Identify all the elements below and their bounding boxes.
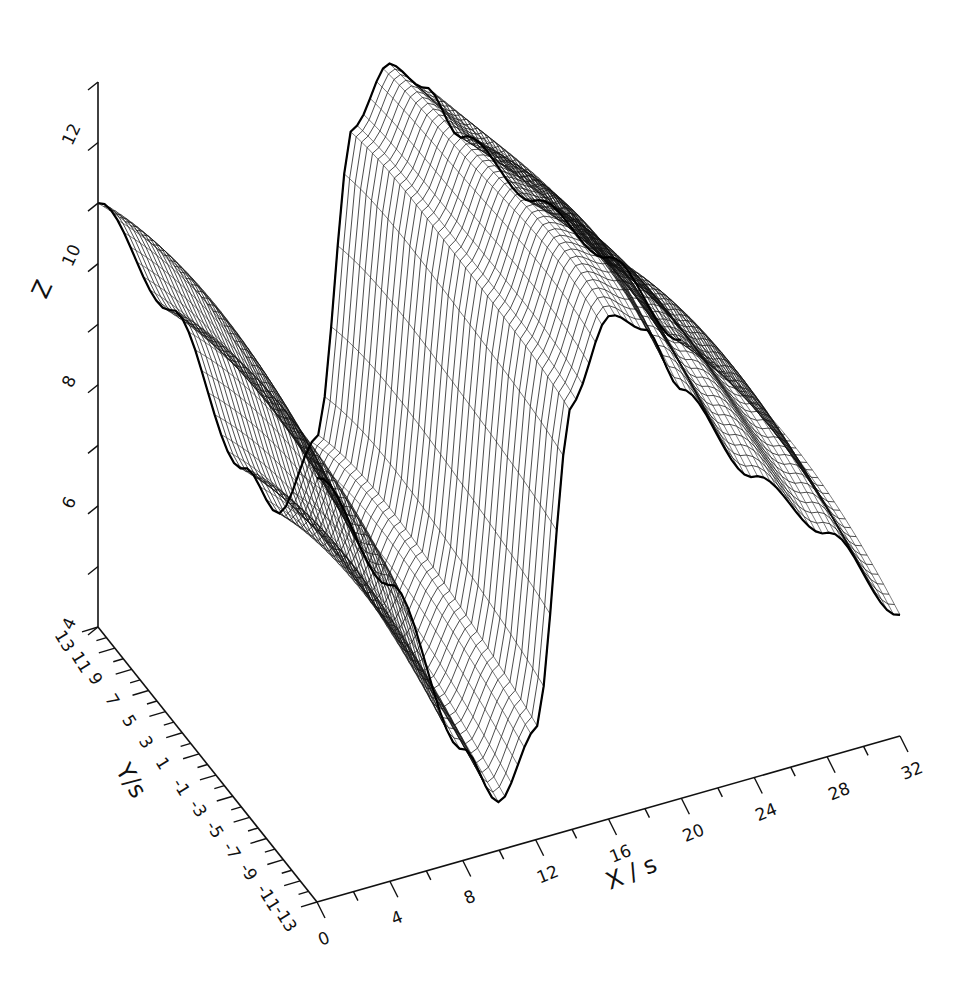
y-tick: [113, 659, 123, 662]
y-tick: [250, 839, 266, 844]
z-tick: [88, 203, 98, 211]
y-tick: [301, 902, 317, 907]
x-axis-ticks: 048121620242832: [315, 736, 926, 950]
x-tick: [827, 757, 835, 773]
z-tick-label: 8: [57, 372, 80, 390]
y-tick: [214, 786, 224, 789]
y-tick-label: -1: [169, 775, 195, 800]
z-tick: [88, 143, 98, 151]
mesh-line: [519, 195, 738, 469]
x-tick: [864, 746, 869, 755]
mesh-line: [409, 78, 628, 322]
mesh-line: [649, 306, 868, 581]
z-tick-label: 12: [57, 120, 84, 148]
y-tick-label: -5: [202, 817, 228, 842]
mesh-line: [312, 306, 895, 792]
x-tick-label: 28: [825, 778, 853, 805]
wireframe-surface: [98, 64, 900, 803]
x-tick: [463, 861, 471, 877]
mesh-line: [182, 318, 401, 593]
surface-plot: 4681012 131197531-1-3-5-7-9-11-13 048121…: [0, 0, 967, 984]
mesh-line: [675, 339, 894, 614]
y-tick-label: 5: [118, 711, 141, 731]
x-tick: [791, 767, 796, 776]
y-tick-label: 1: [152, 753, 175, 773]
x-tick: [572, 829, 577, 838]
z-tick: [88, 82, 98, 90]
mesh-line: [273, 510, 492, 797]
y-axis-title: Y/s: [109, 757, 152, 803]
mesh-line: [224, 193, 807, 647]
mesh-line: [215, 415, 434, 692]
y-tick-label: -3: [185, 796, 211, 821]
x-tick: [353, 892, 358, 901]
mesh-line: [268, 242, 851, 716]
x-tick: [645, 809, 650, 818]
y-axis-ticks: 131197531-1-3-5-7-9-11-13: [51, 627, 317, 936]
z-tick: [88, 264, 98, 272]
mesh-line: [246, 216, 829, 680]
z-tick: [88, 324, 98, 332]
y-tick: [299, 891, 309, 894]
z-tick: [88, 385, 98, 393]
y-tick: [248, 828, 258, 831]
z-axis-ticks: 4681012: [57, 82, 98, 635]
y-tick: [200, 775, 216, 780]
y-tick: [130, 680, 140, 683]
y-tick: [231, 807, 241, 810]
mesh-line: [390, 64, 609, 317]
x-tick: [681, 798, 689, 814]
mesh-line: [104, 69, 687, 517]
mesh-line: [590, 251, 809, 527]
mesh-line: [338, 246, 557, 531]
z-tick-label: 6: [57, 493, 80, 511]
y-tick: [99, 648, 115, 653]
z-tick: [88, 445, 98, 453]
mesh-line: [98, 203, 317, 478]
x-tick: [754, 778, 762, 794]
mesh-line: [150, 290, 369, 565]
y-tick: [133, 690, 149, 695]
mesh-line: [558, 211, 777, 488]
x-tick: [536, 840, 544, 856]
x-tick-label: 4: [388, 906, 406, 929]
y-tick: [116, 669, 132, 674]
y-tick: [166, 733, 182, 738]
y-tick-label: -9: [236, 859, 262, 884]
mesh-line: [506, 179, 725, 449]
y-tick: [181, 743, 191, 746]
mesh-line: [331, 327, 550, 615]
z-tick-label: 10: [57, 241, 84, 269]
y-tick: [164, 722, 174, 725]
y-tick: [183, 754, 199, 759]
mesh-line: [364, 115, 583, 385]
mesh-line: [137, 262, 356, 537]
z-tick: [88, 506, 98, 514]
mesh-line: [383, 69, 602, 326]
x-tick: [900, 736, 908, 752]
mesh-line: [286, 507, 505, 797]
y-tick-label: 9: [84, 669, 107, 689]
y-tick: [234, 817, 250, 822]
mesh-line: [526, 200, 745, 475]
x-tick-label: 12: [534, 861, 562, 888]
z-axis-title: Z: [26, 276, 58, 303]
y-tick-label: 7: [101, 690, 124, 710]
x-tick: [426, 871, 431, 880]
x-tick-label: 0: [315, 927, 333, 950]
mesh-line: [467, 136, 686, 390]
z-tick: [88, 566, 98, 574]
y-tick: [284, 881, 300, 886]
y-tick-label: 11: [67, 648, 95, 677]
x-tick-label: 32: [898, 757, 926, 784]
mesh-line: [279, 513, 498, 802]
y-tick-label: -7: [219, 838, 245, 863]
y-tick: [147, 701, 157, 704]
mesh-line: [448, 122, 667, 368]
x-tick-label: 24: [752, 799, 780, 826]
x-tick-label: 20: [679, 819, 707, 846]
y-tick: [267, 860, 283, 865]
y-tick: [265, 849, 275, 852]
mesh-line: [262, 235, 845, 707]
mesh-line: [461, 138, 680, 389]
